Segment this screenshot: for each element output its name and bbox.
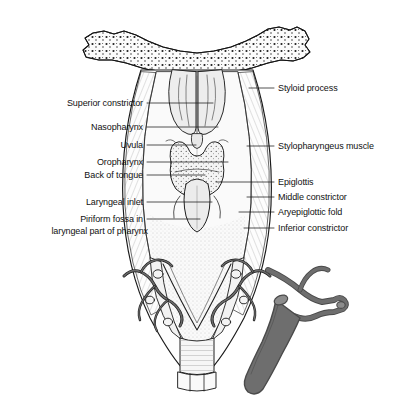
uvula-body — [191, 134, 202, 149]
anatomy-diagram — [0, 0, 395, 411]
label-back-of-tongue: Back of tongue — [84, 170, 143, 181]
skull-base-bone — [83, 27, 310, 77]
dark-vessel-trunk — [244, 268, 345, 394]
label-laryngeal-inlet: Laryngeal inlet — [86, 197, 143, 208]
label-piriform-fossa-line1: Piriform fossa in — [80, 214, 143, 225]
label-inferior-constrictor: Inferior constrictor — [278, 223, 348, 234]
label-styloid-process: Styloid process — [278, 83, 338, 94]
label-nasopharynx: Nasopharynx — [91, 122, 143, 133]
label-piriform-fossa-line2: laryngeal part of pharynx — [51, 226, 148, 237]
label-epiglottis: Epiglottis — [278, 177, 314, 188]
label-oropharynx: Oropharynx — [97, 157, 143, 168]
esophagus — [178, 338, 216, 391]
label-stylopharyngeus-muscle: Stylopharyngeus muscle — [278, 141, 374, 152]
label-middle-constrictor: Middle constrictor — [278, 192, 347, 203]
label-uvula: Uvula — [120, 140, 143, 151]
label-superior-constrictor: Superior constrictor — [67, 98, 143, 109]
label-aryepiglottic-fold: Aryepiglottic fold — [278, 207, 342, 218]
